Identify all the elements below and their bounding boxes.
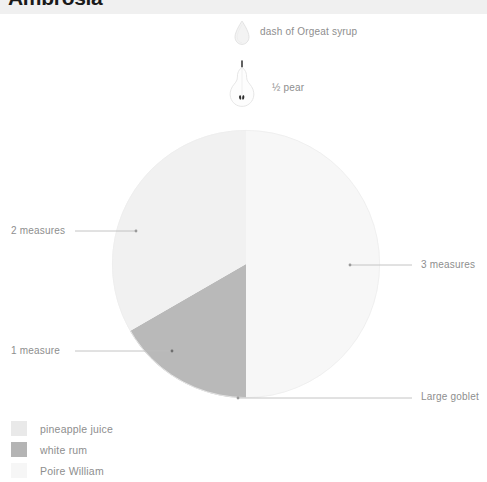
legend-label-poire-william: Poire William xyxy=(40,465,104,477)
legend-item-poire-william: Poire William xyxy=(11,460,231,481)
legend-swatch-white-rum xyxy=(11,442,27,457)
callout-three-measures: 3 measures xyxy=(421,259,475,270)
pie-slice-poire-william xyxy=(246,130,380,398)
legend-swatch-pineapple-juice xyxy=(11,421,27,436)
garnish-label-pear: ½ pear xyxy=(272,82,304,93)
legend-label-white-rum: white rum xyxy=(40,444,87,456)
pie-chart xyxy=(110,128,382,400)
legend: pineapple juice white rum Poire William xyxy=(11,418,231,481)
callout-two-measures: 2 measures xyxy=(11,225,65,236)
recipe-infographic: dash of Orgeat syrup ½ pear xyxy=(0,0,487,482)
legend-swatch-poire-william xyxy=(11,463,27,478)
callout-glassware: Large goblet xyxy=(421,391,479,402)
legend-item-white-rum: white rum xyxy=(11,439,231,460)
callout-one-measure: 1 measure xyxy=(11,345,60,356)
garnish-label-syrup: dash of Orgeat syrup xyxy=(260,26,357,37)
legend-label-pineapple-juice: pineapple juice xyxy=(40,423,113,435)
droplet-icon xyxy=(232,20,252,50)
legend-item-pineapple-juice: pineapple juice xyxy=(11,418,231,439)
pear-icon xyxy=(214,58,270,118)
